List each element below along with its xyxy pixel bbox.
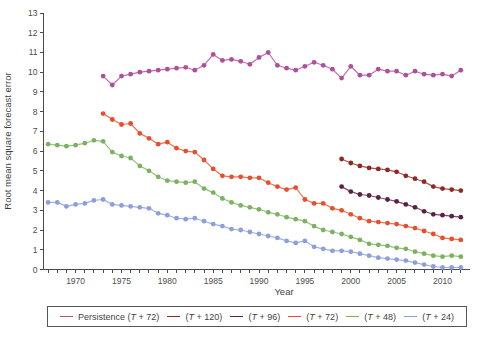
data-point <box>330 248 335 253</box>
data-point <box>367 73 372 78</box>
data-point <box>403 258 408 263</box>
data-point <box>202 158 207 163</box>
y-tick-label: 5 <box>33 166 38 176</box>
data-point <box>156 211 161 216</box>
legend-swatch <box>167 316 180 317</box>
legend-item-5: (T + 24) <box>404 312 454 322</box>
data-point <box>211 52 216 57</box>
y-tick-label: 4 <box>33 186 38 196</box>
data-point <box>192 216 197 221</box>
data-point <box>303 64 308 69</box>
x-tick-label: 1985 <box>204 276 223 286</box>
data-point <box>422 179 427 184</box>
data-point <box>339 232 344 237</box>
data-point <box>321 201 326 206</box>
data-point <box>330 230 335 235</box>
data-point <box>348 161 353 166</box>
data-point <box>293 68 298 73</box>
y-tick-label: 8 <box>33 107 38 117</box>
data-point <box>348 249 353 254</box>
data-point <box>431 232 436 237</box>
y-tick-label: 1 <box>33 245 38 255</box>
data-point <box>238 59 243 64</box>
legend-label: Persistence (T + 72) <box>78 312 159 322</box>
data-point <box>422 209 427 214</box>
data-point <box>348 235 353 240</box>
data-point <box>458 265 463 270</box>
data-point <box>376 195 381 200</box>
data-point <box>413 69 418 74</box>
data-point <box>394 69 399 74</box>
data-point <box>275 184 280 189</box>
data-point <box>110 202 115 207</box>
legend-item-0: Persistence (T + 72) <box>60 312 159 322</box>
legend-label: (T + 24) <box>422 312 454 322</box>
x-tick-label: 1990 <box>250 276 269 286</box>
data-point <box>202 186 207 191</box>
data-point <box>403 73 408 78</box>
data-point <box>174 146 179 151</box>
y-tick-label: 9 <box>33 87 38 97</box>
data-point <box>156 68 161 73</box>
data-point <box>348 212 353 217</box>
data-point <box>422 229 427 234</box>
data-point <box>211 190 216 195</box>
plot-area: 0123456789101112131970197519801985199019… <box>28 8 470 286</box>
data-point <box>211 222 216 227</box>
data-point <box>183 217 188 222</box>
data-point <box>413 226 418 231</box>
data-point <box>413 205 418 210</box>
data-point <box>422 262 427 267</box>
data-point <box>229 227 234 232</box>
data-point <box>46 142 51 147</box>
data-point <box>73 202 78 207</box>
data-point <box>367 166 372 171</box>
data-point <box>394 257 399 262</box>
data-point <box>46 200 51 205</box>
data-point <box>229 174 234 179</box>
data-point <box>183 180 188 185</box>
legend-label: (T + 72) <box>306 312 338 322</box>
data-point <box>137 205 142 210</box>
data-point <box>275 236 280 241</box>
data-point <box>385 256 390 261</box>
data-point <box>128 156 133 161</box>
data-point <box>220 173 225 178</box>
data-point <box>413 260 418 265</box>
data-point <box>119 203 124 208</box>
data-point <box>431 253 436 258</box>
data-point <box>312 224 317 229</box>
data-point <box>303 239 308 244</box>
data-point <box>440 236 445 241</box>
data-point <box>82 201 87 206</box>
data-point <box>403 202 408 207</box>
data-point <box>376 220 381 225</box>
data-point <box>321 63 326 68</box>
data-point <box>64 144 69 149</box>
data-point <box>229 57 234 62</box>
y-tick-label: 2 <box>33 225 38 235</box>
data-point <box>238 228 243 233</box>
data-point <box>339 76 344 81</box>
data-point <box>266 50 271 55</box>
data-point <box>312 60 317 65</box>
data-point <box>431 264 436 269</box>
data-point <box>92 138 97 143</box>
y-tick-label: 3 <box>33 205 38 215</box>
x-tick-label: 2005 <box>387 276 406 286</box>
data-point <box>147 69 152 74</box>
data-point <box>394 199 399 204</box>
data-point <box>211 167 216 172</box>
series-0 <box>101 50 464 87</box>
data-point <box>238 174 243 179</box>
legend-label: (T + 96) <box>248 312 280 322</box>
data-point <box>257 55 262 60</box>
legend-item-4: (T + 48) <box>346 312 396 322</box>
data-point <box>358 238 363 243</box>
data-point <box>101 74 106 79</box>
y-ticks: 012345678910111213 <box>28 8 43 275</box>
y-tick-label: 6 <box>33 146 38 156</box>
data-point <box>248 205 253 210</box>
data-point <box>367 193 372 198</box>
data-point <box>440 265 445 270</box>
